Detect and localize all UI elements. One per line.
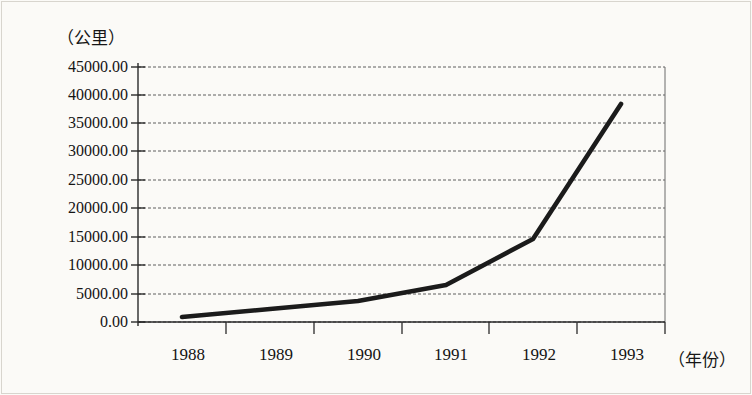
y-tick-label-40000: 40000.00 — [10, 87, 128, 103]
y-tick-label-0: 0.00 — [10, 314, 128, 330]
x-tick-label-1990: 1990 — [328, 346, 400, 363]
y-tick-label-35000: 35000.00 — [10, 115, 128, 131]
x-axis-ticks — [226, 322, 665, 334]
data-series-line — [182, 104, 621, 317]
x-tick-label-1988: 1988 — [152, 346, 224, 363]
chart-page: （公里） — [0, 0, 752, 395]
x-axis-unit-label: （年份） — [668, 346, 736, 371]
y-tick-label-15000: 15000.00 — [10, 229, 128, 245]
gridlines — [138, 67, 665, 322]
y-tick-label-30000: 30000.00 — [10, 143, 128, 159]
x-tick-label-1992: 1992 — [503, 346, 575, 363]
y-tick-label-20000: 20000.00 — [10, 200, 128, 216]
y-tick-label-25000: 25000.00 — [10, 172, 128, 188]
y-tick-label-5000: 5000.00 — [10, 286, 128, 302]
y-tick-label-45000: 45000.00 — [10, 59, 128, 75]
x-tick-label-1989: 1989 — [240, 346, 312, 363]
y-tick-label-10000: 10000.00 — [10, 257, 128, 273]
x-tick-label-1993: 1993 — [591, 346, 663, 363]
x-tick-label-1991: 1991 — [415, 346, 487, 363]
